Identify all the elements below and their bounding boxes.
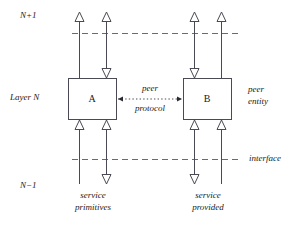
arrowhead-b-upper-right-up — [217, 12, 226, 22]
label-layer-above: N+1 — [20, 10, 37, 21]
arrowhead-a-lower-right-up — [102, 120, 111, 130]
arrowhead-a-upper-right-up — [102, 12, 111, 22]
arrowhead-b-lower-right-up — [217, 120, 226, 130]
label-layer-current: Layer N — [10, 92, 39, 103]
arrowhead-a-lower-left-up — [75, 120, 84, 130]
arrowhead-a-upper-left-up — [75, 12, 84, 22]
arrowhead-b-upper-left-down — [190, 69, 199, 79]
peer-protocol-label-line1: peer — [120, 83, 180, 94]
peer-protocol-diagram: N+1 Layer N N−1 A B peer protocol peer e… — [0, 0, 301, 227]
arrowhead-a-upper-right-down — [102, 69, 111, 79]
service-provided-label-line1: service — [178, 190, 238, 201]
entity-b-label: B — [183, 93, 231, 104]
peer-entity-label-line2: entity — [248, 96, 268, 107]
peer-entity-label-line1: peer — [248, 84, 264, 95]
label-layer-below: N−1 — [20, 180, 37, 191]
arrowhead-b-lower-left-down — [190, 175, 199, 185]
peer-protocol-label-line2: protocol — [120, 103, 180, 114]
entity-a-label: A — [68, 93, 116, 104]
service-primitives-label-line1: service — [63, 190, 123, 201]
arrowhead-b-lower-left-up — [190, 120, 199, 130]
arrowhead-a-lower-right-down — [102, 175, 111, 185]
interface-label: interface — [249, 153, 281, 164]
service-primitives-label-line2: primitives — [63, 202, 123, 213]
service-provided-label-line2: provided — [178, 202, 238, 213]
arrowhead-b-upper-left-up — [190, 12, 199, 22]
